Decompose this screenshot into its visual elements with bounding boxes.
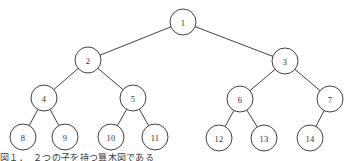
tree-node[interactable]: 8: [10, 124, 36, 150]
tree-node[interactable]: 7: [317, 86, 343, 112]
tree-node-label: 5: [131, 94, 135, 104]
tree-edge: [139, 109, 148, 125]
tree-edge: [98, 68, 123, 89]
tree-edge: [29, 109, 38, 125]
tree-diagram: 1234567891011121314: [0, 0, 348, 161]
figure-caption: 図１． ２つの子を持つ算木図である: [0, 153, 348, 161]
tree-node[interactable]: 1: [170, 9, 196, 35]
tree-node-label: 6: [238, 95, 242, 105]
tree-node[interactable]: 13: [251, 125, 277, 151]
tree-edge: [247, 110, 257, 127]
tree-node-label: 10: [107, 133, 116, 143]
tree-node[interactable]: 12: [206, 125, 232, 151]
tree-node-label: 1: [181, 18, 185, 28]
tree-edge: [295, 69, 320, 90]
tree-node-label: 8: [21, 133, 25, 143]
tree-edge: [316, 111, 324, 127]
tree-edge: [250, 69, 275, 90]
tree-node[interactable]: 6: [227, 86, 253, 112]
tree-node[interactable]: 9: [52, 124, 78, 150]
tree-node[interactable]: 11: [142, 124, 168, 150]
node-layer: 1234567891011121314: [10, 9, 343, 151]
tree-node[interactable]: 4: [31, 85, 57, 111]
tree-node-label: 3: [283, 57, 287, 67]
binary-tree-figure: 1234567891011121314 図１． ２つの子を持つ算木図である: [0, 0, 348, 161]
tree-node-label: 13: [260, 134, 269, 144]
tree-edge: [225, 110, 234, 126]
tree-node-label: 2: [86, 56, 90, 66]
tree-node[interactable]: 3: [272, 48, 298, 74]
tree-node[interactable]: 14: [297, 125, 323, 151]
tree-node-label: 11: [151, 133, 160, 143]
tree-node-label: 12: [215, 134, 224, 144]
edge-layer: [29, 27, 324, 127]
tree-edge: [195, 27, 273, 57]
tree-node-label: 4: [42, 94, 47, 104]
tree-node[interactable]: 2: [75, 47, 101, 73]
tree-node-label: 14: [306, 134, 315, 144]
tree-edge: [100, 27, 171, 55]
tree-edge: [117, 109, 126, 125]
tree-node[interactable]: 5: [120, 85, 146, 111]
tree-node[interactable]: 10: [98, 124, 124, 150]
tree-node-label: 9: [63, 133, 67, 143]
tree-node-label: 7: [328, 95, 332, 105]
tree-edge: [50, 109, 59, 125]
tree-edge: [54, 69, 78, 90]
